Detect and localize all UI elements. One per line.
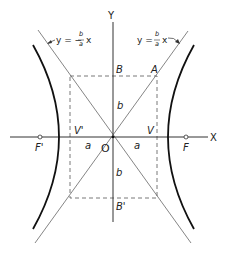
focus-right-marker (184, 135, 188, 139)
label-V: V (147, 125, 155, 136)
y-axis-label: Y (107, 10, 115, 21)
label-A: A (150, 64, 158, 75)
label-F: F (183, 142, 189, 153)
label-F-prime: F' (35, 142, 44, 153)
label-B: B (116, 64, 123, 75)
label-b-bottom: b (116, 167, 122, 178)
label-O: O (101, 142, 110, 155)
svg-text:a: a (155, 40, 159, 48)
origin-dot (112, 136, 115, 139)
asymptote-positive-label: y = b a x (137, 30, 180, 48)
label-B-prime: B' (116, 201, 126, 212)
label-a-left: a (85, 140, 91, 151)
svg-text:x: x (86, 35, 92, 45)
label-a-right: a (134, 140, 140, 151)
x-axis-label: X (210, 132, 217, 143)
hyperbola-diagram: Y X B A b V' V F' F a a O b B' y = − b a… (0, 0, 227, 253)
svg-text:y =: y = (137, 35, 153, 45)
svg-text:a: a (79, 40, 83, 48)
svg-text:b: b (79, 30, 83, 38)
focus-left-marker (38, 135, 42, 139)
svg-text:x: x (162, 35, 168, 45)
label-b-top: b (117, 100, 123, 111)
asymptote-negative-label: y = − b a x (47, 30, 92, 48)
label-V-prime: V' (74, 125, 84, 136)
svg-text:b: b (155, 30, 159, 38)
